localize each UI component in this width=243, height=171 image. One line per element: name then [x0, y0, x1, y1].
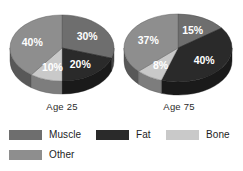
pie-slice-value-other: 40%: [22, 36, 44, 48]
pie-slice-value-bone: 10%: [42, 61, 64, 73]
pie-chart-age-75: 15%40%8%37%: [120, 6, 238, 98]
pie-slice-value-muscle: 30%: [77, 30, 99, 42]
chart-legend: Muscle Fat Bone Other: [0, 124, 243, 171]
pie-label-age-25: Age 25: [6, 101, 118, 112]
legend-swatch-bone: [166, 130, 199, 140]
charts-row: 30%20%10%40% 15%40%8%37% Age 25 Age 75: [0, 0, 243, 100]
legend-swatch-fat: [96, 130, 129, 140]
pie-chart-figure: 30%20%10%40% 15%40%8%37% Age 25 Age 75 M…: [0, 0, 243, 171]
legend-label-other: Other: [49, 149, 75, 160]
legend-item-muscle: Muscle: [9, 129, 81, 140]
pie-age-75-svg: 15%40%8%37%: [120, 6, 238, 98]
pie-chart-age-25: 30%20%10%40%: [6, 6, 118, 98]
pie-age-25-svg: 30%20%10%40%: [6, 6, 118, 98]
legend-item-bone: Bone: [166, 129, 230, 140]
pie-slice-value-bone: 8%: [153, 59, 169, 71]
legend-swatch-muscle: [9, 130, 42, 140]
legend-item-fat: Fat: [96, 129, 151, 140]
pie-slice-value-muscle: 15%: [182, 24, 204, 36]
pie-slice-value-fat: 40%: [194, 54, 216, 66]
legend-label-muscle: Muscle: [49, 129, 81, 140]
legend-label-fat: Fat: [136, 129, 151, 140]
pie-slice-value-other: 37%: [138, 34, 160, 46]
legend-item-other: Other: [9, 149, 75, 160]
legend-label-bone: Bone: [206, 129, 230, 140]
legend-swatch-other: [9, 150, 42, 160]
pie-slice-value-fat: 20%: [70, 58, 92, 70]
pie-label-age-75: Age 75: [120, 101, 238, 112]
